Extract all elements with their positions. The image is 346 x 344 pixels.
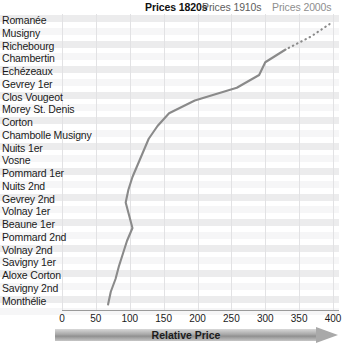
arrow-head-icon	[316, 327, 338, 343]
relative-price-arrow: Relative Price	[55, 327, 339, 342]
x-axis-line	[62, 310, 339, 311]
x-axis-title: Relative Price	[55, 329, 317, 341]
series-line-dotted	[286, 24, 330, 50]
series-line-solid	[108, 50, 286, 305]
x-tick-label: 400	[313, 313, 346, 324]
